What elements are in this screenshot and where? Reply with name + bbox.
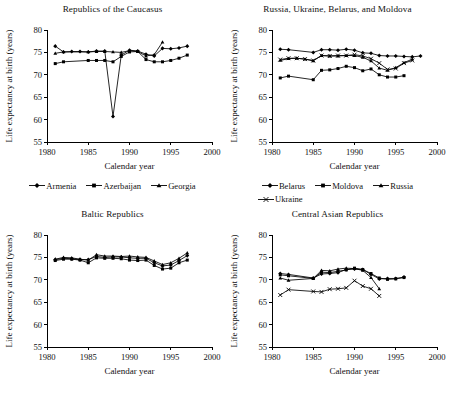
x-tick-label: 2000	[203, 147, 220, 157]
x-axis-title: Calendar year	[329, 161, 379, 171]
y-tick-label: 60	[33, 115, 42, 125]
y-axis-title: Life expectancy at birth (years)	[4, 235, 14, 348]
legend-item-moldova: Moldova	[315, 179, 363, 192]
y-tick-label: 60	[258, 320, 267, 330]
diamond-marker-icon	[29, 181, 45, 190]
cross-marker-icon	[258, 195, 274, 204]
legend-item-russia: Russia	[373, 179, 413, 192]
page-caption-fragment	[0, 396, 450, 405]
panel-title-western: Russia, Ukraine, Belarus, and Moldova	[225, 4, 450, 15]
y-tick-label: 65	[33, 297, 42, 307]
x-tick-label: 2000	[428, 147, 445, 157]
y-tick-label: 65	[258, 92, 267, 102]
x-tick-label: 1995	[162, 352, 179, 362]
legend-label: Ukraine	[275, 194, 303, 204]
panel-western: Russia, Ukraine, Belarus, and Moldova 55…	[225, 0, 450, 200]
y-axis-title: Life expectancy at birth (years)	[229, 235, 239, 348]
legend-label: Armenia	[46, 181, 76, 191]
x-tick-label: 1995	[162, 147, 179, 157]
triangle-marker-icon	[151, 181, 167, 190]
figure-four-panel-life-expectancy: Republics of the Caucasus 55606570758019…	[0, 0, 450, 405]
y-tick-label: 80	[258, 230, 267, 240]
x-axis-title: Calendar year	[329, 366, 379, 376]
legend-label: Georgia	[168, 181, 196, 191]
y-tick-label: 75	[33, 47, 42, 57]
x-tick-label: 1990	[121, 147, 138, 157]
x-tick-label: 1980	[38, 147, 55, 157]
y-tick-label: 70	[258, 275, 267, 285]
y-tick-label: 55	[33, 342, 42, 352]
legend-row: ArmeniaAzerbaijanGeorgia	[0, 178, 225, 192]
x-tick-label: 1995	[387, 352, 404, 362]
x-tick-label: 2000	[428, 352, 445, 362]
square-marker-icon	[315, 181, 331, 190]
y-tick-label: 80	[33, 25, 42, 35]
legend-label: Belarus	[279, 181, 305, 191]
legend-label: Azerbaijan	[103, 181, 141, 191]
y-tick-label: 75	[258, 47, 267, 57]
y-tick-label: 70	[258, 70, 267, 80]
y-tick-label: 65	[258, 297, 267, 307]
y-tick-label: 80	[33, 230, 42, 240]
legend-item-azerbaijan: Azerbaijan	[86, 179, 141, 192]
x-axis-title: Calendar year	[104, 366, 154, 376]
triangle-marker-icon	[373, 181, 389, 190]
panel-baltic: Baltic Republics 55606570758019801985199…	[0, 205, 225, 405]
legend-row: Ukraine	[225, 192, 450, 206]
panel-caucasus: Republics of the Caucasus 55606570758019…	[0, 0, 225, 200]
y-axis-title: Life expectancy at birth (years)	[4, 30, 14, 143]
series-moldova	[279, 65, 406, 81]
chart-canvas-western: 55606570758019801985199019952000Life exp…	[225, 16, 450, 178]
chart-canvas-central_asia: 55606570758019801985199019952000Life exp…	[225, 221, 450, 383]
panel-title-baltic: Baltic Republics	[0, 209, 225, 220]
x-tick-label: 2000	[203, 352, 220, 362]
y-tick-label: 70	[33, 70, 42, 80]
series-tajikistan	[278, 266, 381, 290]
x-tick-label: 1985	[80, 147, 97, 157]
legend-item-georgia: Georgia	[151, 179, 196, 192]
panel-title-caucasus: Republics of the Caucasus	[0, 4, 225, 15]
legend-row: BelarusMoldovaRussia	[225, 178, 450, 192]
series-ukraine	[278, 53, 414, 72]
x-tick-label: 1990	[346, 147, 363, 157]
panel-central-asia: Central Asian Republics 5560657075801980…	[225, 205, 450, 405]
y-tick-label: 80	[258, 25, 267, 35]
legend-caucasus: ArmeniaAzerbaijanGeorgia	[0, 178, 225, 192]
x-tick-label: 1995	[387, 147, 404, 157]
y-tick-label: 55	[258, 342, 267, 352]
panel-title-central-asia: Central Asian Republics	[225, 209, 450, 220]
square-marker-icon	[86, 181, 102, 190]
x-tick-label: 1980	[263, 352, 280, 362]
y-tick-label: 60	[258, 115, 267, 125]
legend-label: Russia	[390, 181, 413, 191]
y-tick-label: 75	[258, 252, 267, 262]
chart-canvas-baltic: 55606570758019801985199019952000Life exp…	[0, 221, 225, 383]
legend-label: Moldova	[332, 181, 363, 191]
legend-item-ukraine: Ukraine	[258, 192, 303, 205]
series-turkmenistan	[278, 279, 381, 298]
y-tick-label: 70	[33, 275, 42, 285]
legend-western: BelarusMoldovaRussiaUkraine	[225, 178, 450, 205]
x-tick-label: 1980	[263, 147, 280, 157]
y-tick-label: 75	[33, 252, 42, 262]
series-belarus	[278, 47, 422, 59]
x-tick-label: 1990	[121, 352, 138, 362]
x-tick-label: 1985	[305, 147, 322, 157]
x-tick-label: 1985	[80, 352, 97, 362]
x-axis-title: Calendar year	[104, 161, 154, 171]
diamond-marker-icon	[262, 181, 278, 190]
y-tick-label: 60	[33, 320, 42, 330]
x-tick-label: 1985	[305, 352, 322, 362]
y-tick-label: 55	[258, 137, 267, 147]
y-tick-label: 55	[33, 137, 42, 147]
legend-item-armenia: Armenia	[29, 179, 76, 192]
legend-item-belarus: Belarus	[262, 179, 305, 192]
y-tick-label: 65	[33, 92, 42, 102]
x-tick-label: 1990	[346, 352, 363, 362]
y-axis-title: Life expectancy at birth (years)	[229, 30, 239, 143]
chart-canvas-caucasus: 55606570758019801985199019952000Life exp…	[0, 16, 225, 178]
x-tick-label: 1980	[38, 352, 55, 362]
